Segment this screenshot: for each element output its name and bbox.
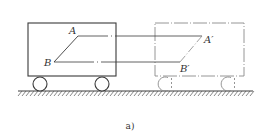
translation-diagram: A B A′ B′ a) (0, 0, 265, 139)
hatch-stroke (54, 91, 58, 96)
label-b: B (43, 57, 51, 68)
hatch-stroke (230, 91, 234, 96)
hatch-stroke (62, 91, 66, 96)
hatch-stroke (114, 91, 118, 96)
hatch-stroke (130, 91, 134, 96)
hatch-stroke (102, 91, 106, 96)
cart-translated (155, 23, 244, 91)
hatch-stroke (214, 91, 218, 96)
hatch-stroke (234, 91, 238, 96)
cart-original-wheel-right (95, 77, 109, 91)
cart-translated-body (155, 23, 244, 76)
hatch-stroke (42, 91, 46, 96)
hatch-stroke (126, 91, 130, 96)
hatch-stroke (246, 91, 250, 96)
segment-a-prime-b-prime (180, 36, 202, 62)
hatch-stroke (222, 91, 226, 96)
hatch-stroke (82, 91, 86, 96)
hatch-stroke (190, 91, 194, 96)
segment-translation (54, 36, 202, 62)
ground (18, 91, 254, 96)
hatch-stroke (174, 91, 178, 96)
hatch-stroke (210, 91, 214, 96)
figure-caption: a) (126, 121, 135, 131)
hatch-stroke (122, 91, 126, 96)
hatch-stroke (166, 91, 170, 96)
hatch-stroke (90, 91, 94, 96)
cart-translated-wheel-left (158, 77, 168, 91)
hatch-stroke (162, 91, 166, 96)
hatch-stroke (118, 91, 122, 96)
hatch-stroke (110, 91, 114, 96)
hatch-stroke (206, 91, 210, 96)
hatch-stroke (98, 91, 102, 96)
hatch-stroke (26, 91, 30, 96)
label-b-prime: B′ (179, 63, 190, 74)
hatch-stroke (178, 91, 182, 96)
label-a: A (68, 25, 76, 36)
cart-translated-wheel-right (221, 77, 231, 91)
hatch-stroke (134, 91, 138, 96)
hatch-stroke (22, 91, 26, 96)
hatch-stroke (38, 91, 42, 96)
hatch-stroke (186, 91, 190, 96)
segment-ab (54, 36, 78, 62)
hatch-stroke (58, 91, 62, 96)
label-a-prime: A′ (203, 34, 214, 45)
hatch-stroke (194, 91, 198, 96)
hatch-stroke (250, 91, 254, 96)
hatch-stroke (78, 91, 82, 96)
hatch-stroke (66, 91, 70, 96)
ground-hatching (18, 91, 254, 96)
hatch-stroke (218, 91, 222, 96)
hatch-stroke (198, 91, 202, 96)
hatch-stroke (94, 91, 98, 96)
hatch-stroke (74, 91, 78, 96)
hatch-stroke (154, 91, 158, 96)
hatch-stroke (106, 91, 110, 96)
hatch-stroke (138, 91, 142, 96)
hatch-stroke (242, 91, 246, 96)
hatch-stroke (34, 91, 38, 96)
cart-original-wheel-left (33, 77, 47, 91)
hatch-stroke (86, 91, 90, 96)
hatch-stroke (202, 91, 206, 96)
hatch-stroke (146, 91, 150, 96)
hatch-stroke (50, 91, 54, 96)
hatch-stroke (170, 91, 174, 96)
hatch-stroke (226, 91, 230, 96)
hatch-stroke (18, 91, 22, 96)
hatch-stroke (182, 91, 186, 96)
hatch-stroke (70, 91, 74, 96)
hatch-stroke (30, 91, 34, 96)
hatch-stroke (238, 91, 242, 96)
hatch-stroke (158, 91, 162, 96)
hatch-stroke (150, 91, 154, 96)
hatch-stroke (46, 91, 50, 96)
hatch-stroke (142, 91, 146, 96)
